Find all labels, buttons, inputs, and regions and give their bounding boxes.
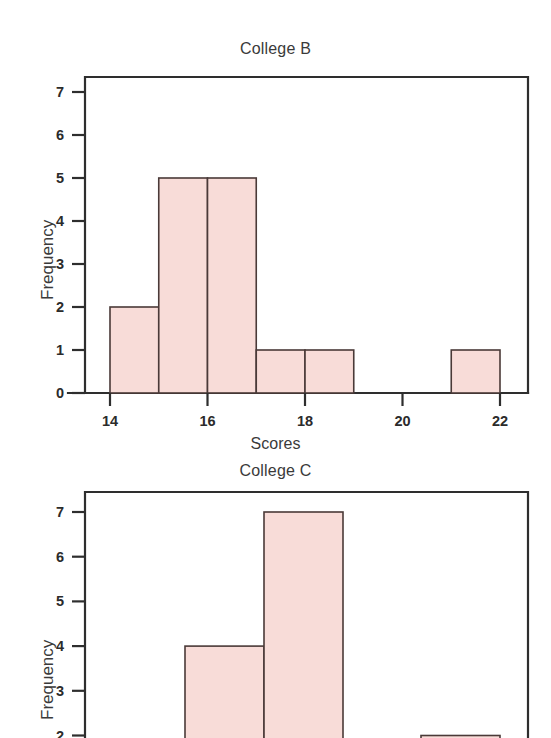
bar-18-19 <box>305 350 354 393</box>
bar-c-16-17 <box>264 512 343 738</box>
y-tick-label-4-top: 4 <box>56 213 64 229</box>
bar-14-15 <box>110 307 159 393</box>
y-tick-label-5-top: 5 <box>56 170 64 186</box>
y-tick-label-2-top: 2 <box>56 299 64 315</box>
bar-17-18 <box>256 350 305 393</box>
y-tick-label-3-bottom: 3 <box>56 683 64 699</box>
y-tick-label-7-top: 7 <box>56 84 64 100</box>
y-tick-label-2-bottom: 2 <box>56 728 64 738</box>
x-tick-label-22: 22 <box>492 413 508 429</box>
y-tick-label-7-bottom: 7 <box>56 504 64 520</box>
panel-college-b: College B Frequency 0 1 2 3 4 5 6 7 <box>0 0 551 470</box>
y-tick-label-6-top: 6 <box>56 127 64 143</box>
plot-area-college-c: 7 6 5 4 3 2 <box>0 462 551 738</box>
x-tick-label-18: 18 <box>297 413 313 429</box>
histogram-figure: College B Frequency 0 1 2 3 4 5 6 7 <box>0 0 551 738</box>
bar-15-16 <box>159 178 208 393</box>
bar-21-22 <box>451 350 500 393</box>
y-tick-label-3-top: 3 <box>56 256 64 272</box>
x-tick-label-14: 14 <box>102 413 118 429</box>
x-axis-title-scores: Scores <box>0 435 551 453</box>
y-tick-label-1-top: 1 <box>56 342 64 358</box>
plot-area-college-b: 0 1 2 3 4 5 6 7 14 16 18 20 <box>0 0 551 470</box>
x-tick-label-16: 16 <box>199 413 215 429</box>
bar-c-15-16 <box>185 646 264 738</box>
y-tick-label-0-top: 0 <box>56 385 64 401</box>
x-tick-label-20: 20 <box>394 413 410 429</box>
panel-college-c: College C Frequency 7 6 5 4 3 2 <box>0 462 551 738</box>
y-tick-label-6-bottom: 6 <box>56 549 64 565</box>
bar-16-17 <box>208 178 257 393</box>
y-tick-label-4-bottom: 4 <box>56 638 64 654</box>
y-tick-label-5-bottom: 5 <box>56 593 64 609</box>
